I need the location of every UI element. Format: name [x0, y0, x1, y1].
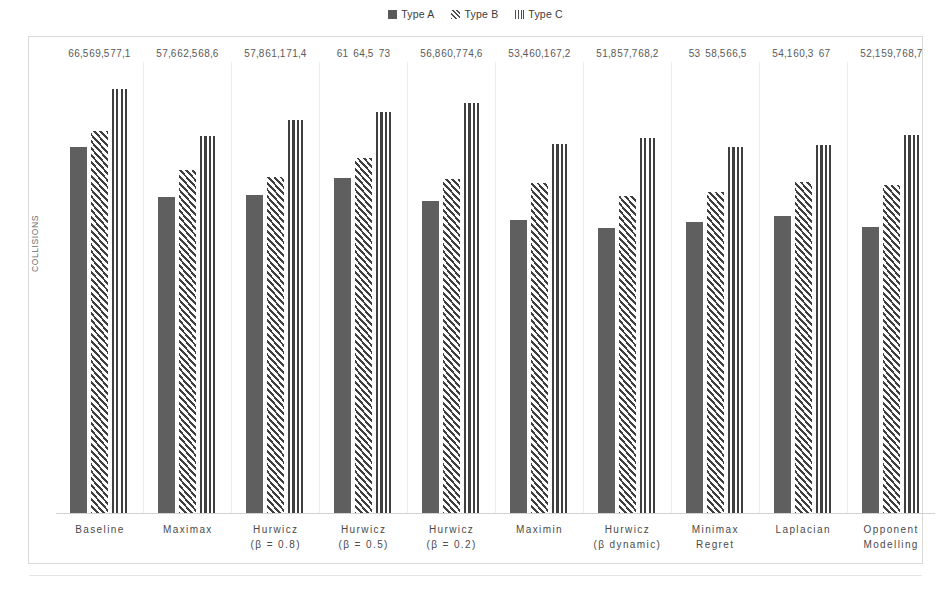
- bar-type-c[interactable]: 74,6: [464, 103, 481, 514]
- bar-type-a[interactable]: 53,4: [510, 220, 527, 514]
- category-label-line1: Maximax: [163, 524, 213, 535]
- bar-type-b[interactable]: 59,7: [883, 185, 900, 514]
- category-label-line2: (β dynamic): [583, 537, 671, 552]
- bar-value-label: 61: [337, 48, 349, 59]
- bar-value-label: 77,1: [110, 48, 130, 59]
- category-label-line1: Hurwicz: [605, 524, 650, 535]
- x-axis-line: [56, 513, 935, 514]
- bar-type-b[interactable]: 60,1: [531, 183, 548, 514]
- bar-type-c[interactable]: 67: [816, 145, 833, 514]
- bar-column: 62,5: [179, 62, 196, 514]
- legend-swatch-diagonal-hatch-icon: [451, 10, 460, 19]
- bar-type-c[interactable]: 68,2: [640, 138, 657, 514]
- category-label-line1: Hurwicz: [429, 524, 474, 535]
- bar-type-b[interactable]: 69,5: [91, 131, 108, 514]
- category-label: Maximin: [496, 516, 584, 537]
- bar-type-c[interactable]: 68,7: [904, 135, 921, 514]
- bar-type-a[interactable]: 53: [686, 222, 703, 514]
- bar-type-a[interactable]: 57,8: [246, 195, 263, 514]
- bar-value-label: 57,7: [617, 48, 637, 59]
- bar-type-a[interactable]: 54,1: [774, 216, 791, 514]
- bar-type-c[interactable]: 66,5: [728, 147, 745, 514]
- bar-column: 77,1: [112, 62, 129, 514]
- bar-column: 68,7: [904, 62, 921, 514]
- category-label: Hurwicz(β = 0.8): [232, 516, 320, 552]
- bar-type-b[interactable]: 64,5: [355, 158, 372, 514]
- bar-column: 57,8: [246, 62, 263, 514]
- bar-type-c[interactable]: 67,2: [552, 144, 569, 514]
- legend-item-type-a[interactable]: Type A: [388, 8, 434, 20]
- category-label-line1: Hurwicz: [341, 524, 386, 535]
- bar-value-label: 71,4: [286, 48, 306, 59]
- category-label-line1: Minimax: [692, 524, 739, 535]
- legend-swatch-vertical-lines-icon: [515, 10, 524, 19]
- bar-value-label: 64,5: [353, 48, 373, 59]
- bar-column: 54,1: [774, 62, 791, 514]
- category-label-line1: Maximin: [516, 524, 563, 535]
- category-label-line1: Laplacian: [775, 524, 830, 535]
- category-label: Hurwicz(β = 0.2): [408, 516, 496, 552]
- bar-value-label: 52,1: [860, 48, 880, 59]
- bar-type-a[interactable]: 57,6: [158, 197, 175, 515]
- bar-type-a[interactable]: 51,8: [598, 228, 615, 514]
- bar-type-c[interactable]: 77,1: [112, 89, 129, 514]
- bar-column: 68,6: [200, 62, 217, 514]
- category-label: Maximax: [144, 516, 232, 537]
- bar-type-a[interactable]: 52,1: [862, 227, 879, 514]
- bar-type-a[interactable]: 56,8: [422, 201, 439, 514]
- legend-label-type-c: Type C: [528, 8, 562, 20]
- category-label: Hurwicz(β = 0.5): [320, 516, 408, 552]
- bar-value-label: 61,1: [265, 48, 285, 59]
- bar-type-a[interactable]: 66,5: [70, 147, 87, 514]
- bar-type-b[interactable]: 60,7: [443, 179, 460, 514]
- bar-value-label: 51,8: [596, 48, 616, 59]
- bar-column: 61: [334, 62, 351, 514]
- bar-column: 57,7: [619, 62, 636, 514]
- bar-column: 52,1: [862, 62, 879, 514]
- bar-value-label: 60,7: [441, 48, 461, 59]
- bar-value-label: 60,1: [529, 48, 549, 59]
- bar-column: 53: [686, 62, 703, 514]
- bar-value-label: 58,5: [705, 48, 725, 59]
- plot-area: 66,569,577,157,662,568,657,861,171,46164…: [56, 62, 935, 514]
- bar-type-c[interactable]: 71,4: [288, 120, 305, 514]
- legend-item-type-c[interactable]: Type C: [515, 8, 562, 20]
- category-label: Baseline: [56, 516, 144, 537]
- bar-column: 66,5: [70, 62, 87, 514]
- bar-type-b[interactable]: 57,7: [619, 196, 636, 514]
- category-label-line1: Hurwicz: [253, 524, 298, 535]
- legend-label-type-a: Type A: [401, 8, 434, 20]
- bar-column: 56,8: [422, 62, 439, 514]
- bar-column: 64,5: [355, 62, 372, 514]
- bar-value-label: 68,2: [638, 48, 658, 59]
- category-label: OpponentModelling: [847, 516, 935, 552]
- bar-type-b[interactable]: 60,3: [795, 182, 812, 514]
- bar-value-label: 57,6: [156, 48, 176, 59]
- bar-type-b[interactable]: 58,5: [707, 192, 724, 514]
- legend-item-type-b[interactable]: Type B: [451, 8, 498, 20]
- category-label: Hurwicz(β dynamic): [583, 516, 671, 552]
- bar-value-label: 67: [819, 48, 831, 59]
- bar-value-label: 68,6: [198, 48, 218, 59]
- bar-column: 59,7: [883, 62, 900, 514]
- bar-value-label: 57,8: [244, 48, 264, 59]
- bar-value-label: 62,5: [177, 48, 197, 59]
- bar-column: 68,2: [640, 62, 657, 514]
- bar-group: 6164,573: [320, 62, 408, 514]
- bar-type-c[interactable]: 73: [376, 112, 393, 514]
- bar-column: 74,6: [464, 62, 481, 514]
- bar-group: 54,160,367: [760, 62, 848, 514]
- bar-type-b[interactable]: 62,5: [179, 170, 196, 515]
- bar-column: 53,4: [510, 62, 527, 514]
- bar-value-label: 60,3: [793, 48, 813, 59]
- bar-value-label: 59,7: [881, 48, 901, 59]
- category-label-line1: Opponent: [864, 524, 919, 535]
- bar-type-c[interactable]: 68,6: [200, 136, 217, 514]
- bar-column: 61,1: [267, 62, 284, 514]
- bar-group: 53,460,167,2: [496, 62, 584, 514]
- x-axis-category-labels: BaselineMaximaxHurwicz(β = 0.8)Hurwicz(β…: [56, 516, 935, 572]
- bar-type-b[interactable]: 61,1: [267, 177, 284, 514]
- bar-value-label: 53,4: [508, 48, 528, 59]
- bar-type-a[interactable]: 61: [334, 178, 351, 514]
- category-label: Laplacian: [759, 516, 847, 537]
